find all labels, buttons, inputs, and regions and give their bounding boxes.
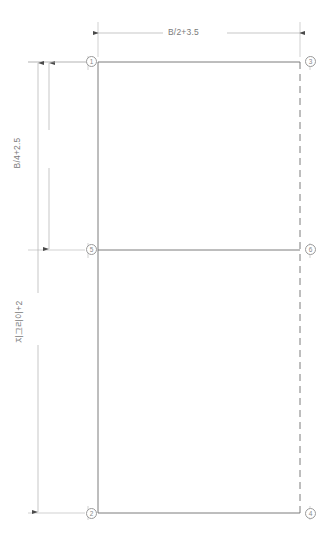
- vertex-tick-marks: [88, 56, 310, 520]
- drawing-canvas: B/2+3.5 B/4+2.5 지그리이+2 1 3 5 6 2 4: [0, 0, 329, 550]
- upper-height-dimension-group: [28, 62, 92, 250]
- vertex-marker-1: 1: [86, 56, 97, 67]
- width-dimension-label: B/2+3.5: [165, 27, 202, 37]
- shape-outline: [98, 62, 300, 513]
- upper-height-dimension-label: B/4+2.5: [12, 135, 22, 172]
- technical-drawing-svg: [0, 0, 329, 550]
- vertex-marker-6: 6: [305, 244, 316, 255]
- total-height-dimension-group: [28, 62, 92, 513]
- vertex-marker-5: 5: [86, 244, 97, 255]
- vertex-marker-3: 3: [305, 56, 316, 67]
- vertex-marker-4: 4: [305, 508, 316, 519]
- vertex-marker-2: 2: [86, 508, 97, 519]
- total-height-dimension-label: 지그리이+2: [12, 298, 24, 347]
